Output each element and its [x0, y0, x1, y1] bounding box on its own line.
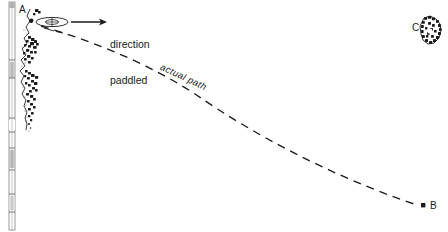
label-direction-paddled-line2: paddled	[110, 74, 150, 86]
island-c	[420, 16, 442, 44]
label-point-a: A	[19, 4, 26, 16]
point-b-marker	[421, 203, 425, 207]
vertical-scale-bar	[9, 2, 15, 230]
rocky-shoreline	[20, 9, 41, 132]
label-direction-paddled: direction paddled	[110, 14, 150, 111]
label-point-b: B	[430, 200, 437, 212]
point-a-marker	[29, 19, 33, 23]
figure-canvas: A B C direction paddled actual path	[0, 0, 448, 232]
label-direction-paddled-line1: direction	[110, 38, 150, 50]
actual-path-dashed-curve	[41, 26, 417, 205]
canoe-symbol	[36, 17, 68, 33]
label-point-c: C	[412, 22, 419, 34]
diagram-svg	[0, 0, 448, 232]
direction-arrow	[71, 19, 107, 26]
